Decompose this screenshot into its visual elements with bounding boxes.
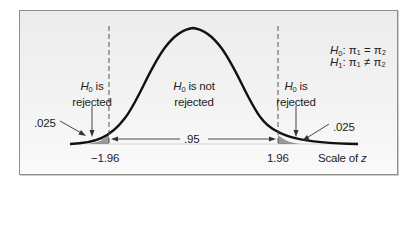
center-area: .95 <box>184 133 199 145</box>
axis-label: Scale of z <box>318 152 367 164</box>
right-reject-label: H0 is rejected <box>268 80 324 108</box>
alternative-hypothesis: H1: π₁ ≠ π₂ <box>330 56 386 72</box>
middle-accept-label: H0 is not rejected <box>163 80 225 108</box>
right-critical-value: 1.96 <box>267 152 289 164</box>
left-arrowhead <box>111 137 118 142</box>
left-tail-area: .025 <box>34 117 56 129</box>
left-reject-label: H0 is rejected <box>64 80 120 108</box>
right-reject-arrowhead <box>294 130 299 137</box>
right-arrowhead <box>269 137 276 142</box>
left-reject-arrowhead <box>90 130 95 137</box>
right-tail-area: .025 <box>333 121 355 133</box>
left-critical-value: −1.96 <box>91 152 119 164</box>
left-tail-arrowhead <box>79 130 87 136</box>
